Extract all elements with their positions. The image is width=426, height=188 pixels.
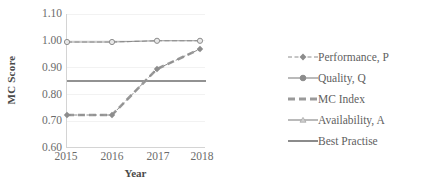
y-axis-title-text: MC Score: [5, 56, 17, 105]
legend-label: MC Index: [318, 93, 365, 105]
y-axis-title: MC Score: [2, 28, 20, 132]
legend-label: Performance, P: [318, 51, 389, 63]
x-tick-label: 2016: [89, 150, 135, 163]
legend-label: Quality, Q: [318, 72, 366, 84]
legend-label: Availability, A: [318, 114, 385, 126]
series-line-mc-index: [67, 49, 200, 115]
legend-key-thick-dash-icon: [288, 93, 318, 105]
legend-item-availability: Availability, A: [288, 109, 426, 130]
legend-key-solid-line-icon: [288, 135, 318, 147]
y-tick-label: 1.10: [28, 8, 62, 20]
y-tick-label: 1.00: [28, 35, 62, 47]
x-tick-label: 2017: [135, 150, 181, 163]
plot-area: [66, 14, 205, 148]
x-axis-title: Year: [66, 167, 205, 179]
data-point-quality: [109, 39, 114, 44]
data-point-quality: [197, 38, 202, 43]
data-point-quality: [64, 39, 69, 44]
data-point-performance: [64, 112, 70, 118]
data-point-quality: [154, 38, 159, 43]
legend-key-solid-circle-icon: [288, 72, 318, 84]
legend-item-best-practise: Best Practise: [288, 130, 426, 151]
y-tick-label: 0.90: [28, 62, 62, 74]
legend-item-quality: Quality, Q: [288, 67, 426, 88]
y-tick-label: 0.70: [28, 115, 62, 127]
legend-key-dash-dot-diamond-icon: [288, 51, 318, 63]
series-overlay: [67, 14, 206, 148]
legend-item-mc-index: MC Index: [288, 88, 426, 109]
y-tick-label: 0.80: [28, 89, 62, 101]
chart-legend: Performance, P Quality, Q MC Index: [288, 46, 426, 151]
x-tick-label: 2015: [43, 150, 89, 163]
x-tick-label: 2018: [179, 150, 225, 163]
legend-item-performance: Performance, P: [288, 46, 426, 67]
data-point-performance: [197, 46, 203, 52]
x-axis-tick-labels: 2015 2016 2017 2018: [0, 150, 426, 166]
legend-label: Best Practise: [318, 135, 378, 147]
chart-figure: MC Score 1.10 1.00 0.90 0.80 0.70 0.60: [0, 0, 426, 188]
legend-key-solid-triangle-icon: [288, 114, 318, 126]
